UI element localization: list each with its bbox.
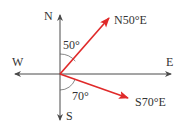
label-angle-70: 70° (72, 89, 89, 103)
label-north: N (44, 9, 53, 23)
label-south: S (66, 109, 73, 123)
label-west: W (12, 55, 24, 69)
compass-diagram: N S W E N50°E S70°E 50° 70° (0, 0, 180, 131)
label-angle-50: 50° (63, 38, 80, 52)
label-vector-n50e: N50°E (114, 13, 147, 27)
label-vector-s70e: S70°E (135, 95, 166, 109)
label-east: E (166, 55, 173, 69)
